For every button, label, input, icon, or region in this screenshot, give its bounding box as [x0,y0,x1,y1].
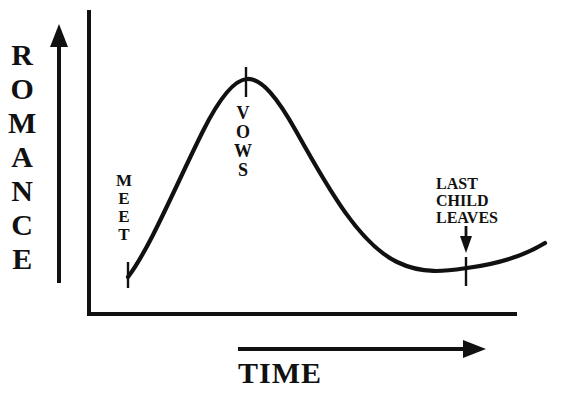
romance-over-time-figure: R O M A N C E M E E T V O W S LAST CHILD… [0,0,565,395]
y-axis-title-letter: E [12,244,32,274]
y-axis-title-letter: R [11,40,33,70]
annotation-label-last-child-leaves: LAST CHILD LEAVES [436,176,498,227]
annotation-letter: V [237,104,250,122]
y-axis-title-letter: M [8,108,36,138]
annotation-letter: S [238,161,248,179]
annotation-letter: M [116,172,132,189]
annotation-letter: W [234,142,252,160]
annotation-line: CHILD [436,193,498,210]
y-axis-title-letter: O [10,74,33,104]
annotation-line: LAST [436,176,498,193]
x-axis-title: TIME [238,356,322,390]
annotation-letter: E [118,190,129,207]
down-arrow-icon [460,226,472,253]
annotation-letter: T [118,226,129,243]
annotation-line: LEAVES [436,210,498,227]
y-axis-title-letter: C [11,210,33,240]
y-axis-title: R O M A N C E [8,40,36,278]
annotation-label-vows: V O W S [234,104,252,180]
annotation-letter: E [118,208,129,225]
y-axis-title-letter: A [11,142,33,172]
up-arrow-icon [50,24,68,283]
annotation-label-meet: M E E T [116,172,132,244]
annotation-letter: O [236,123,250,141]
y-axis-title-letter: N [11,176,33,206]
